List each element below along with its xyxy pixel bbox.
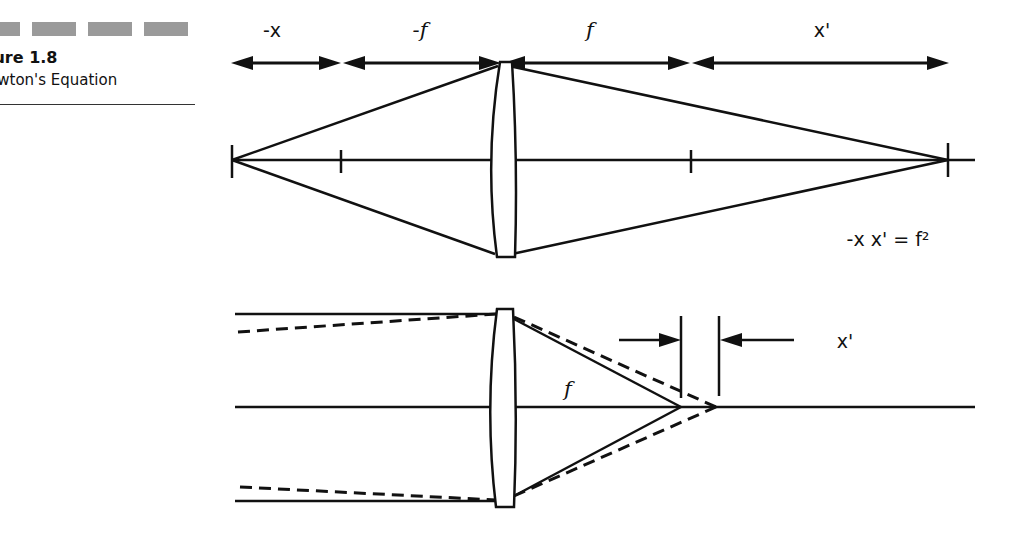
top-diagram: -x -f f x' -x x' = f² <box>231 18 975 257</box>
dashed-ray-lower-in <box>240 487 496 500</box>
dashed-ray-upper-in <box>238 314 496 332</box>
label-minus-x: -x <box>263 19 281 41</box>
bottom-diagram: f x' <box>235 309 975 507</box>
label-x-prime: x' <box>814 19 830 41</box>
label-minus-f: -f <box>413 18 431 42</box>
dimension-arrows <box>231 56 949 70</box>
converging-ray-lower <box>512 407 681 497</box>
newton-equation: -x x' = f² <box>847 228 930 250</box>
label-focal-length: f <box>562 377 575 401</box>
lens-top <box>491 62 516 257</box>
label-shift-x-prime: x' <box>837 330 853 352</box>
lens-bottom <box>490 309 516 507</box>
dashed-ray-upper-out <box>514 317 716 407</box>
converging-ray-upper <box>512 318 681 407</box>
newtons-equation-diagram: -x -f f x' -x x' = f² <box>0 0 1017 538</box>
label-f: f <box>584 18 597 42</box>
dashed-ray-lower-out <box>514 407 716 496</box>
focal-shift-indicator <box>619 316 794 398</box>
